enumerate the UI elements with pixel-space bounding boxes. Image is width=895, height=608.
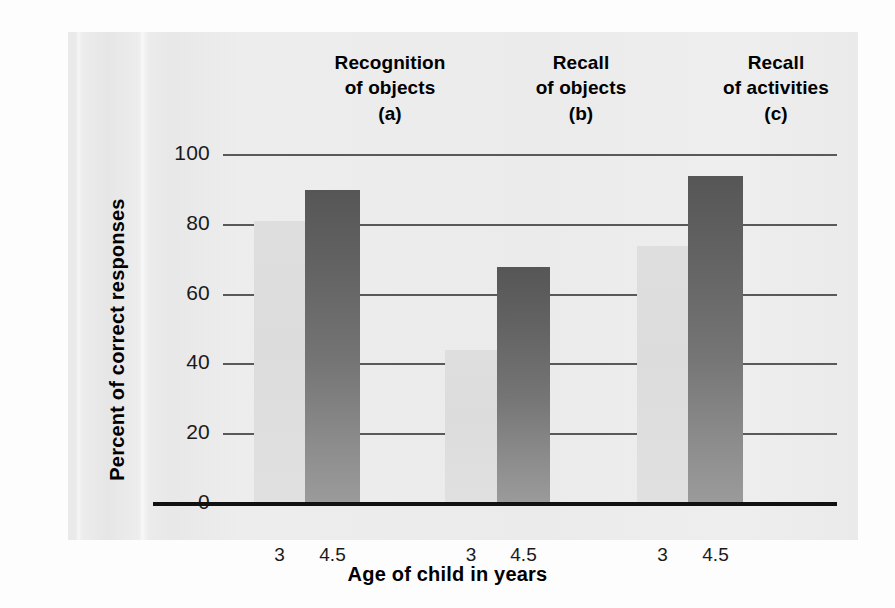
group-heading-line: Recognition bbox=[280, 50, 500, 75]
group-heading-a: Recognitionof objects(a) bbox=[280, 50, 500, 126]
group-heading-c: Recallof activities(c) bbox=[666, 50, 886, 126]
figure-root: 020406080100Recognitionof objects(a)34.5… bbox=[0, 0, 895, 608]
x-axis-title: Age of child in years bbox=[0, 563, 895, 586]
y-tick-label-80: 80 bbox=[130, 211, 210, 235]
gridline-100 bbox=[223, 154, 837, 156]
bar-c-age-3 bbox=[637, 246, 688, 504]
y-axis-title: Percent of correct responses bbox=[106, 140, 129, 540]
group-heading-line: (b) bbox=[471, 101, 691, 126]
group-heading-line: Recall bbox=[471, 50, 691, 75]
bar-b-age-4.5 bbox=[497, 267, 550, 504]
y-tick-label-40: 40 bbox=[130, 350, 210, 374]
bar-c-age-4.5 bbox=[688, 176, 743, 504]
group-heading-line: Recall bbox=[666, 50, 886, 75]
plot-area: 020406080100Recognitionof objects(a)34.5… bbox=[68, 32, 858, 540]
group-heading-line: of activities bbox=[666, 75, 886, 100]
y-tick-label-100: 100 bbox=[130, 141, 210, 165]
bar-b-age-3 bbox=[445, 350, 497, 504]
x-axis-line bbox=[153, 502, 837, 506]
group-heading-b: Recallof objects(b) bbox=[471, 50, 691, 126]
group-heading-line: (a) bbox=[280, 101, 500, 126]
group-heading-line: of objects bbox=[280, 75, 500, 100]
chart-panel: 020406080100Recognitionof objects(a)34.5… bbox=[68, 32, 858, 540]
y-tick-label-60: 60 bbox=[130, 281, 210, 305]
bar-a-age-3 bbox=[254, 221, 305, 504]
bar-a-age-4.5 bbox=[305, 190, 360, 504]
group-heading-line: (c) bbox=[666, 101, 886, 126]
y-tick-label-20: 20 bbox=[130, 420, 210, 444]
group-heading-line: of objects bbox=[471, 75, 691, 100]
